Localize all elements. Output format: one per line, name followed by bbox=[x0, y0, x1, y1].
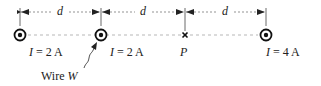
point-p-label: P bbox=[180, 46, 187, 58]
current-value: = 2 A bbox=[117, 45, 144, 59]
wire-w-prefix: Wire bbox=[41, 69, 68, 83]
wire-w-name-label: Wire W bbox=[41, 70, 78, 82]
distance-label-2: d bbox=[140, 5, 146, 17]
current-value: = 2 A bbox=[36, 45, 63, 59]
wire-1-icon bbox=[15, 30, 26, 41]
wire-w-icon bbox=[96, 30, 107, 41]
distance-label-1: d bbox=[57, 5, 63, 17]
wire-3-icon bbox=[261, 30, 272, 41]
current-symbol: I bbox=[266, 45, 270, 59]
current-symbol: I bbox=[29, 45, 33, 59]
wire-w-leader-arrow bbox=[84, 48, 94, 68]
wire-w-leader-arrowhead-icon bbox=[91, 42, 97, 50]
current-symbol: I bbox=[110, 45, 114, 59]
distance-label-3: d bbox=[222, 5, 228, 17]
wire-3-current-label: I = 4 A bbox=[266, 46, 300, 58]
wire-1-current-label: I = 2 A bbox=[29, 46, 63, 58]
wire-w-current-label: I = 2 A bbox=[110, 46, 144, 58]
wire-w-symbol: W bbox=[68, 69, 78, 83]
current-value: = 4 A bbox=[273, 45, 300, 59]
